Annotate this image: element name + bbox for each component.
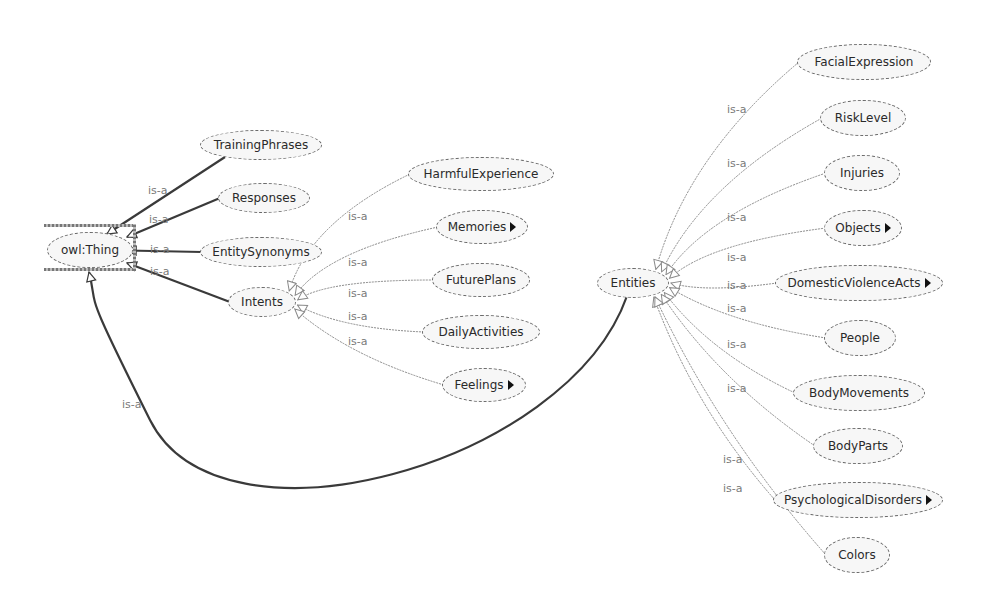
edge-label-is-a: is-a [348,210,368,223]
edge-label-is-a: is-a [150,243,170,256]
node-label: FacialExpression [815,55,914,69]
is-a-edge [89,272,627,488]
node-label: owl:Thing [61,243,119,257]
node-objects[interactable]: Objects [824,210,902,246]
node-memories[interactable]: Memories [436,210,528,244]
expand-triangle-icon[interactable] [885,223,891,233]
node-label: Entities [611,276,656,290]
node-label: PsychologicalDisorders [784,493,922,507]
edge-label-is-a: is-a [148,184,168,197]
expand-triangle-icon[interactable] [510,222,516,232]
edge-label-is-a: is-a [150,265,170,278]
edge-label-is-a: is-a [727,382,747,395]
node-people[interactable]: People [824,320,896,356]
edge-label-is-a: is-a [149,213,169,226]
node-injuries[interactable]: Injuries [824,155,900,191]
node-label: Objects [835,221,880,235]
node-facial-expression[interactable]: FacialExpression [797,44,931,80]
node-psychological-disorders[interactable]: PsychologicalDisorders [773,482,943,518]
node-intents[interactable]: Intents [228,287,296,317]
edge-label-is-a: is-a [122,398,142,411]
node-training-phrases[interactable]: TrainingPhrases [200,130,322,160]
ontology-graph-canvas[interactable]: owl:Thing TrainingPhrasesResponsesEntity… [0,0,994,609]
edge-label-is-a: is-a [727,103,747,116]
edge-label-is-a: is-a [727,251,747,264]
node-label: Injuries [840,166,884,180]
node-owl-thing[interactable]: owl:Thing [47,232,133,268]
node-feelings[interactable]: Feelings [442,368,526,402]
edge-label-is-a: is-a [723,482,743,495]
edge-label-is-a: is-a [727,279,747,292]
edge-label-is-a: is-a [727,302,747,315]
is-a-edge [661,294,815,446]
node-label: BodyParts [828,439,888,453]
node-entity-synonyms[interactable]: EntitySynonyms [200,237,322,267]
is-a-edge [295,309,444,385]
node-label: DomesticViolenceActs [787,276,920,290]
node-entities[interactable]: Entities [597,268,669,298]
node-label: Responses [232,191,296,205]
node-label: TrainingPhrases [214,138,308,152]
node-body-movements[interactable]: BodyMovements [793,375,925,411]
edge-label-is-a: is-a [348,287,368,300]
root-bracket-top [44,224,136,227]
expand-triangle-icon[interactable] [926,495,932,505]
edge-label-is-a: is-a [348,310,368,323]
edge-label-is-a: is-a [348,335,368,348]
edge-label-is-a: is-a [727,211,747,224]
is-a-edge [127,263,230,302]
node-risk-level[interactable]: RiskLevel [820,100,906,136]
is-a-edge [671,283,777,288]
node-label: Memories [448,220,507,234]
node-label: BodyMovements [809,386,909,400]
is-a-edge [655,297,826,555]
is-a-edge [289,174,410,291]
expand-triangle-icon[interactable] [508,380,514,390]
node-label: FuturePlans [446,273,516,287]
node-colors[interactable]: Colors [824,537,890,573]
node-label: Colors [838,548,876,562]
node-harmful-experience[interactable]: HarmfulExperience [408,157,554,191]
node-label: RiskLevel [835,111,892,125]
node-label: Feelings [454,378,503,392]
node-label: People [840,331,880,345]
node-domestic-violence-acts[interactable]: DomesticViolenceActs [775,265,943,301]
node-future-plans[interactable]: FuturePlans [432,263,530,297]
edge-label-is-a: is-a [348,256,368,269]
node-label: EntitySynonyms [212,245,309,259]
edge-label-is-a: is-a [723,453,743,466]
is-a-edge [662,118,822,272]
node-label: Intents [241,295,283,309]
node-daily-activities[interactable]: DailyActivities [422,315,540,349]
expand-triangle-icon[interactable] [925,278,931,288]
node-label: DailyActivities [438,325,523,339]
node-responses[interactable]: Responses [218,183,310,213]
edge-label-is-a: is-a [727,157,747,170]
is-a-edge [127,198,220,237]
root-bracket-bottom [44,268,136,271]
node-body-parts[interactable]: BodyParts [813,428,903,464]
root-bracket-right [133,224,136,271]
node-label: HarmfulExperience [424,167,539,181]
edge-label-is-a: is-a [727,338,747,351]
